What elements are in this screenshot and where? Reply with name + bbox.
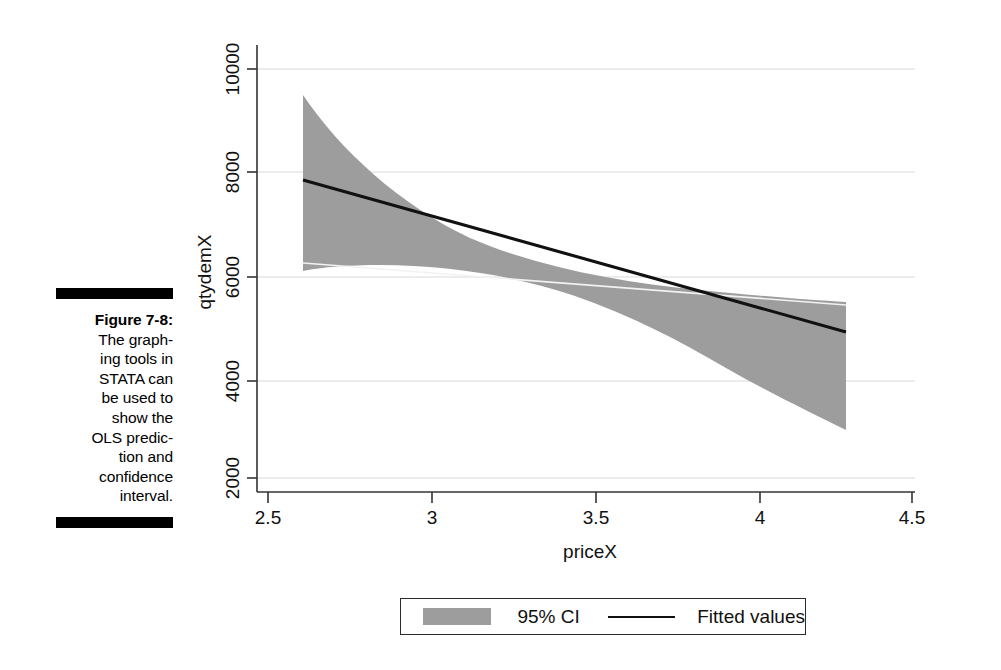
axis-frame	[257, 45, 915, 492]
legend-fitted-label: Fitted values	[697, 606, 805, 628]
y-axis-ticks	[247, 69, 257, 478]
y-tick-label: 6000	[222, 256, 243, 298]
x-tick-label: 2.5	[255, 507, 281, 528]
legend-ci-swatch	[423, 608, 491, 625]
y-tick-label: 4000	[222, 360, 243, 402]
x-axis-tick-labels: 2.5 3 3.5 4 4.5	[255, 507, 925, 528]
x-tick-label: 3	[427, 507, 438, 528]
confidence-interval-band	[303, 95, 846, 430]
legend-ci-label: 95% CI	[517, 606, 579, 628]
y-tick-label: 8000	[222, 151, 243, 193]
x-axis-title: priceX	[563, 541, 617, 562]
x-tick-label: 4	[755, 507, 766, 528]
x-tick-label: 3.5	[583, 507, 609, 528]
plot-canvas: 10000 8000 6000 4000 2000 qtydemX 2.5 3 …	[0, 0, 1001, 670]
chart-figure: 10000 8000 6000 4000 2000 qtydemX 2.5 3 …	[0, 0, 1001, 670]
y-axis-title: qtydemX	[194, 234, 215, 309]
figure-page: Figure 7-8: The graph- ing tools in STAT…	[0, 0, 1001, 670]
legend-fitted-line-sample	[608, 616, 676, 618]
x-axis-ticks	[268, 492, 912, 503]
x-tick-label: 4.5	[899, 507, 925, 528]
y-tick-label: 10000	[222, 43, 243, 96]
y-tick-label: 2000	[222, 457, 243, 499]
y-axis-tick-labels: 10000 8000 6000 4000 2000	[222, 43, 243, 500]
chart-legend: 95% CI Fitted values	[400, 598, 806, 635]
